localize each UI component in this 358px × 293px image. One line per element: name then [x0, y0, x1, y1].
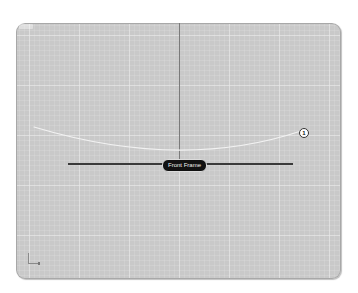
viewport-canvas[interactable]: Front Frame 1	[16, 23, 341, 279]
curve-layer	[16, 23, 341, 279]
axes-orientation-icon	[26, 251, 46, 267]
front-frame-label[interactable]: Front Frame	[162, 159, 207, 172]
x-axis-tip	[38, 262, 40, 265]
front-frame-curve[interactable]	[34, 127, 301, 150]
point-marker[interactable]: 1	[299, 128, 309, 138]
